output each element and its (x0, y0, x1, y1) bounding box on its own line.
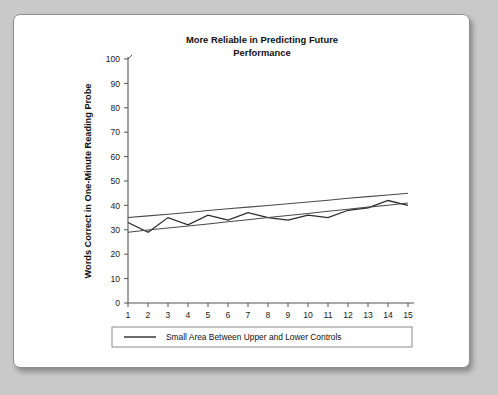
y-axis-tick-label-100: 100 (106, 54, 121, 64)
x-axis-tick-label-5: 5 (206, 310, 211, 320)
legend-label: Small Area Between Upper and Lower Contr… (166, 332, 342, 342)
x-axis-tick-label-15: 15 (403, 310, 413, 320)
y-axis-tick-label-70: 70 (110, 127, 120, 137)
lower-control-line (128, 203, 408, 232)
chart-title-line-2: Performance (233, 47, 290, 58)
x-axis-tick-label-2: 2 (146, 310, 151, 320)
x-axis-tick-label-6: 6 (226, 310, 231, 320)
x-axis-tick-label-7: 7 (246, 310, 251, 320)
y-axis-tick-label-90: 90 (110, 79, 120, 89)
x-axis-tick-label-9: 9 (286, 310, 291, 320)
x-axis-tick-label-12: 12 (343, 310, 353, 320)
chart-canvas: More Reliable in Predicting FuturePerfor… (14, 15, 469, 367)
x-axis-tick-label-10: 10 (303, 310, 313, 320)
chart-title-line-1: More Reliable in Predicting Future (186, 34, 338, 45)
x-axis-tick-label-1: 1 (126, 310, 131, 320)
x-axis-tick-label-13: 13 (363, 310, 373, 320)
upper-control-line (128, 193, 408, 217)
chart-card: More Reliable in Predicting FuturePerfor… (13, 14, 470, 368)
y-axis-tick-label-30: 30 (110, 225, 120, 235)
screenshot-page: More Reliable in Predicting FuturePerfor… (0, 0, 498, 395)
y-axis-tick-label-60: 60 (110, 152, 120, 162)
reading-probe-line-chart: More Reliable in Predicting FuturePerfor… (14, 15, 469, 367)
y-axis-tick-label-80: 80 (110, 103, 120, 113)
y-axis-top-cap (128, 55, 132, 59)
x-axis-tick-label-3: 3 (166, 310, 171, 320)
y-axis-tick-label-20: 20 (110, 249, 120, 259)
y-axis-tick-label-0: 0 (115, 298, 120, 308)
x-axis-tick-label-11: 11 (324, 310, 333, 320)
y-axis-tick-label-40: 40 (110, 201, 120, 211)
x-axis-tick-label-4: 4 (186, 310, 191, 320)
y-axis-tick-label-10: 10 (110, 274, 120, 284)
y-axis-title: Words Correct in One-Minute Reading Prob… (83, 84, 93, 279)
x-axis-tick-label-8: 8 (266, 310, 271, 320)
y-axis-tick-label-50: 50 (110, 176, 120, 186)
x-axis-tick-label-14: 14 (383, 310, 393, 320)
